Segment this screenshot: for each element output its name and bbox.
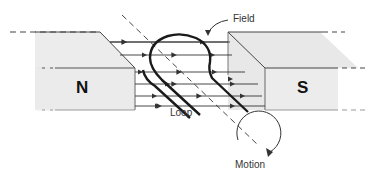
generator-diagram: N S Field Loop Motion xyxy=(0,0,375,181)
north-magnet xyxy=(10,32,135,110)
north-pole-label: N xyxy=(76,78,88,97)
south-pole-label: S xyxy=(297,78,308,97)
south-magnet xyxy=(228,32,365,110)
motion-indicator xyxy=(237,111,281,157)
motion-label: Motion xyxy=(235,159,265,170)
field-label: Field xyxy=(233,13,255,24)
field-callout xyxy=(205,20,228,36)
loop-label: Loop xyxy=(170,107,193,118)
